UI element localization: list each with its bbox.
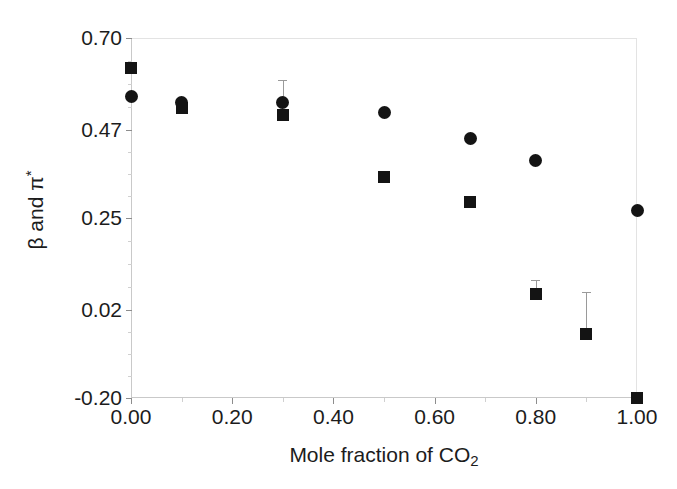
y-tick-label: 0.02: [4, 299, 122, 320]
data-point-square: [378, 171, 390, 183]
data-point-square: [631, 392, 643, 404]
y-tick-minor: [128, 84, 132, 85]
error-bar-cap: [582, 292, 591, 293]
x-axis-title-text: Mole fraction of CO: [289, 443, 470, 466]
y-tick-mark: [126, 38, 132, 39]
plot-area-frame: [131, 38, 637, 398]
chart-figure: -0.200.020.250.470.70 0.000.200.400.600.…: [0, 0, 677, 489]
y-tick-label: 0.25: [4, 207, 122, 228]
x-tick-minor: [384, 398, 385, 402]
x-tick-label: 0.60: [390, 406, 480, 428]
y-tick-mark: [126, 218, 132, 219]
y-tick-minor: [128, 241, 132, 242]
x-tick-label: 0.00: [86, 406, 176, 428]
data-point-circle: [529, 154, 542, 167]
data-point-circle: [378, 106, 391, 119]
y-axis-title-superscript: *: [22, 170, 39, 176]
error-bar-cap: [278, 80, 287, 81]
x-tick-mark: [435, 398, 436, 404]
y-tick-label: 0.70: [4, 27, 122, 48]
y-axis-title: β and π*: [24, 110, 50, 310]
y-tick-minor: [128, 376, 132, 377]
y-tick-minor: [128, 287, 132, 288]
x-tick-label: 0.80: [491, 406, 581, 428]
x-axis-title-subscript: 2: [470, 452, 478, 469]
data-point-circle: [276, 96, 289, 109]
x-tick-minor: [586, 398, 587, 402]
data-point-square: [464, 196, 476, 208]
y-axis-title-text: β and π: [24, 176, 47, 249]
x-tick-minor: [182, 398, 183, 402]
y-tick-minor: [128, 354, 132, 355]
data-point-square: [530, 288, 542, 300]
y-tick-label: -0.20: [4, 387, 122, 408]
x-axis-title: Mole fraction of CO2: [131, 443, 637, 469]
x-tick-label: 0.40: [288, 406, 378, 428]
y-tick-label: 0.47: [4, 119, 122, 140]
x-tick-label: 1.00: [592, 406, 677, 428]
x-tick-mark: [131, 398, 132, 404]
data-point-square: [176, 102, 188, 114]
data-point-circle: [125, 90, 138, 103]
y-tick-minor: [128, 174, 132, 175]
data-point-circle: [631, 204, 644, 217]
x-tick-minor: [283, 398, 284, 402]
y-tick-minor: [128, 107, 132, 108]
data-point-circle: [464, 132, 477, 145]
data-point-square: [277, 109, 289, 121]
y-tick-minor: [128, 152, 132, 153]
x-tick-label: 0.20: [187, 406, 277, 428]
y-tick-minor: [128, 332, 132, 333]
y-tick-minor: [128, 264, 132, 265]
x-tick-mark: [333, 398, 334, 404]
y-tick-minor: [128, 196, 132, 197]
x-tick-mark: [536, 398, 537, 404]
y-tick-mark: [126, 310, 132, 311]
error-bar-cap: [531, 280, 540, 281]
data-point-square: [580, 328, 592, 340]
x-tick-mark: [232, 398, 233, 404]
y-tick-mark: [126, 130, 132, 131]
x-tick-minor: [485, 398, 486, 402]
data-point-square: [125, 62, 137, 74]
